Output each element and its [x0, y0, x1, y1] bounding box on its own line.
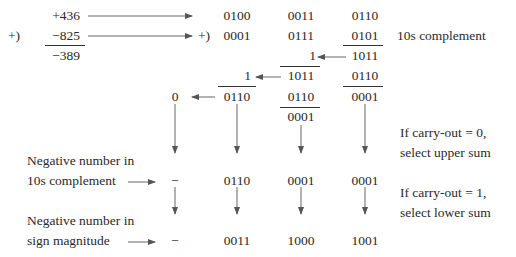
stage3-sum-1: 0110: [284, 89, 318, 105]
decimal-result: −389: [40, 48, 80, 64]
bcd-b-digit-1: 0111: [284, 28, 318, 44]
bcd-b-digit-2: 0101: [348, 28, 382, 44]
tens-complement-note: 10s complement: [397, 28, 486, 44]
stage3-sum-0: 0110: [220, 89, 254, 105]
bcd-operator: +): [198, 28, 210, 44]
stage3-carry: 0: [168, 89, 182, 105]
sign-mag-sign: −: [168, 233, 182, 249]
tens-comp-label-line2: 10s complement: [27, 173, 116, 189]
bcd-a-digit-1: 0011: [284, 8, 318, 24]
carry1-note-line2: select lower sum: [400, 205, 491, 221]
decimal-operand-a: +436: [40, 8, 80, 24]
carry1-note-line1: If carry-out = 1,: [400, 185, 486, 201]
stage2-rule: [280, 66, 320, 67]
carry0-note-line1: If carry-out = 0,: [400, 125, 486, 141]
sign-mag-digit-2: 1001: [348, 233, 382, 249]
stage2-carry: 1: [235, 68, 251, 84]
stage2-sum-1: 0110: [348, 68, 382, 84]
bcd-a-digit-0: 0100: [220, 8, 254, 24]
stage1-rule: [343, 45, 383, 46]
decimal-operator: +): [8, 28, 20, 44]
tens-comp-digit-2: 0001: [348, 173, 382, 189]
tens-comp-sign: −: [168, 173, 182, 189]
decimal-operand-b: −825: [40, 28, 80, 44]
stage3-rule-a: [218, 86, 256, 87]
bcd-subtraction-diagram: +436 +) −825 −389 0100 0011 0110 +) 0001…: [0, 0, 516, 257]
stage2-sum-0: 1011: [284, 68, 318, 84]
sign-mag-label-line1: Negative number in: [27, 213, 134, 229]
tens-comp-digit-1: 0001: [284, 173, 318, 189]
sign-mag-digit-0: 0011: [220, 233, 254, 249]
correction-rule: [280, 107, 320, 108]
carry0-note-line2: select upper sum: [400, 145, 491, 161]
stage3-sum-2: 0001: [348, 89, 382, 105]
sign-mag-digit-1: 1000: [284, 233, 318, 249]
stage3-rule-b: [343, 86, 383, 87]
decimal-sum-rule: [45, 45, 85, 46]
stage1-carry: 1: [300, 48, 316, 64]
tens-comp-label-line1: Negative number in: [27, 153, 134, 169]
right-arrow-icon: [88, 16, 365, 242]
corrected-digit: 0001: [284, 109, 318, 125]
sign-mag-label-line2: sign magnitude: [27, 233, 110, 249]
tens-comp-digit-0: 0110: [220, 173, 254, 189]
stage1-sum: 1011: [348, 48, 382, 64]
bcd-a-digit-2: 0110: [348, 8, 382, 24]
bcd-b-digit-0: 0001: [220, 28, 254, 44]
